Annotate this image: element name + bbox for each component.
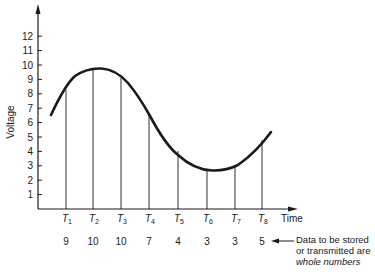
y-tick-label: 1 — [27, 189, 33, 200]
left-arrow-icon — [271, 239, 279, 244]
x-axis — [38, 207, 298, 212]
annotation-note: Data to be stored or transmitted are who… — [296, 234, 370, 267]
sample-label-t7: T7 — [231, 213, 241, 225]
sample-label-t8: T8 — [258, 213, 268, 225]
y-tick-label: 11 — [23, 45, 34, 56]
sample-label-t5: T5 — [174, 213, 184, 225]
sample-value-t3: 10 — [115, 236, 127, 247]
sample-value-t1: 9 — [63, 236, 69, 247]
sample-time-labels: T1T2T3T4T5T6T7T8 — [62, 213, 268, 225]
sample-value-t6: 3 — [204, 236, 210, 247]
sample-label-t1: T1 — [62, 213, 72, 225]
annotation-line-1: Data to be stored — [296, 234, 370, 245]
x-axis-arrow-icon — [288, 207, 298, 212]
y-tick-label: 7 — [27, 103, 33, 114]
sampling-diagram: 123456789101112 Voltage T1T2T3T4T5T6T7T8… — [0, 0, 375, 272]
y-tick-label: 4 — [27, 146, 33, 157]
y-axis-arrow-icon — [36, 4, 41, 14]
annotation-arrow — [271, 239, 294, 244]
sample-label-t3: T3 — [117, 213, 127, 225]
sample-value-t8: 5 — [259, 236, 265, 247]
analog-waveform — [51, 68, 271, 170]
sample-value-t4: 7 — [146, 236, 152, 247]
y-tick-label: 3 — [27, 160, 33, 171]
y-tick-label: 5 — [27, 132, 33, 143]
y-tick-label: 12 — [22, 31, 34, 42]
sample-label-t2: T2 — [89, 213, 99, 225]
annotation-line-2: or transmitted are — [296, 245, 370, 256]
y-tick-label: 6 — [27, 117, 33, 128]
y-tick-label: 8 — [27, 88, 33, 99]
y-axis-label: Voltage — [5, 105, 16, 139]
sample-values: 9101074335 — [63, 236, 265, 247]
x-axis-label: Time — [281, 213, 303, 224]
sample-value-t2: 10 — [87, 236, 99, 247]
sample-label-t4: T4 — [145, 213, 155, 225]
y-ticks: 123456789101112 — [22, 31, 42, 200]
sample-value-t5: 4 — [175, 236, 181, 247]
sample-label-t6: T6 — [203, 213, 213, 225]
y-axis — [36, 4, 41, 209]
y-tick-label: 2 — [27, 175, 33, 186]
y-tick-label: 9 — [27, 74, 33, 85]
annotation-line-3: whole numbers — [296, 256, 370, 267]
sample-value-t7: 3 — [232, 236, 238, 247]
y-tick-label: 10 — [22, 60, 34, 71]
